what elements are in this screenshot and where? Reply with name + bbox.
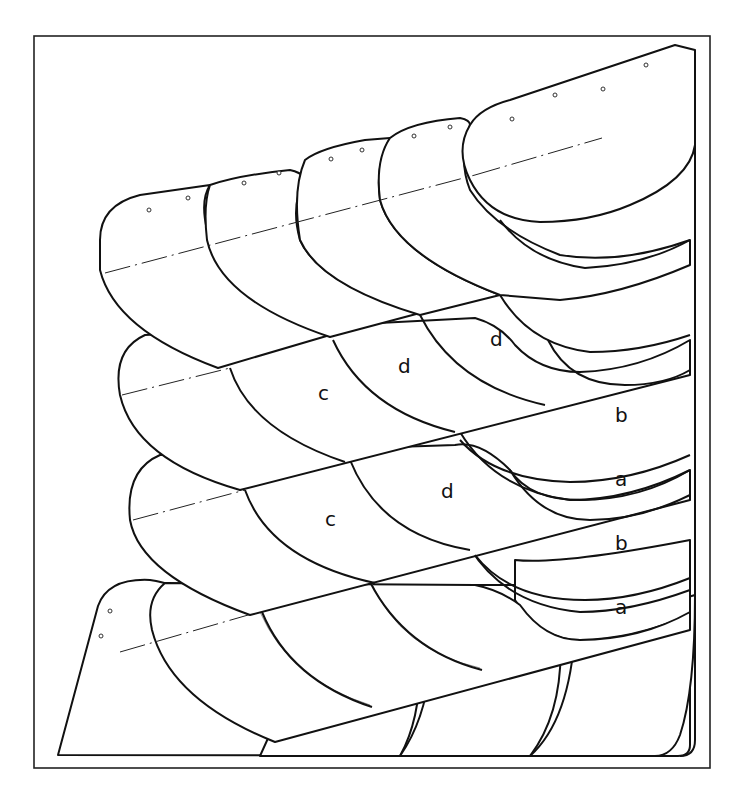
- plate-label: b: [615, 531, 628, 555]
- plate-label: b: [615, 403, 628, 427]
- rivet-hole: [329, 157, 333, 161]
- plate-label: d: [490, 327, 503, 351]
- rivet-hole: [242, 181, 246, 185]
- plate-label: a: [615, 467, 627, 491]
- rivet-hole: [510, 117, 514, 121]
- rivet-hole: [99, 634, 103, 638]
- plate-label: d: [398, 354, 411, 378]
- rivet-hole: [644, 63, 648, 67]
- plate-row-1: [100, 45, 695, 368]
- rivet-hole: [360, 148, 364, 152]
- plate-label: d: [441, 479, 454, 503]
- rivet-hole: [601, 87, 605, 91]
- rivet-hole: [412, 134, 416, 138]
- rivet-hole: [186, 196, 190, 200]
- rivet-hole: [553, 93, 557, 97]
- rivet-hole: [108, 609, 112, 613]
- top-large-plate: [463, 45, 696, 222]
- plate-layout-diagram: d d c b a d c b a: [0, 0, 746, 803]
- plate-label: c: [318, 381, 329, 405]
- plate-label: c: [325, 507, 336, 531]
- rivet-hole: [277, 171, 281, 175]
- plate-label: a: [615, 595, 627, 619]
- rivet-hole: [147, 208, 151, 212]
- rivet-hole: [448, 125, 452, 129]
